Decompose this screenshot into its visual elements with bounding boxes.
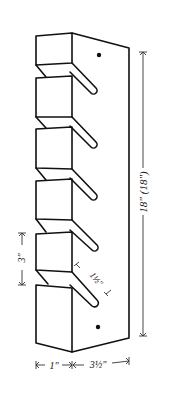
block-1 [36,33,72,65]
screw-hole-top [97,53,101,57]
height-label: 18" (18") [137,171,150,213]
front-thickness-label: 1" [49,360,59,371]
slot-1 [70,63,97,94]
block-4 [36,179,72,220]
block-3 [36,127,72,169]
slot-3 [70,169,97,200]
screw-hole-bottom [96,325,100,329]
slot-2 [70,117,97,148]
slot-length-label: 1½" [88,270,105,288]
rack-drawing: 18" (18") 3" 1½" 1" 3½" [0,0,176,403]
block-6 [36,285,72,352]
block-2 [36,76,72,117]
depth-label: 3½" [89,359,108,370]
block-5 [36,232,72,272]
slot-spacing-label: 3" [16,253,27,264]
slot-4 [70,220,98,251]
side-board [72,33,129,352]
